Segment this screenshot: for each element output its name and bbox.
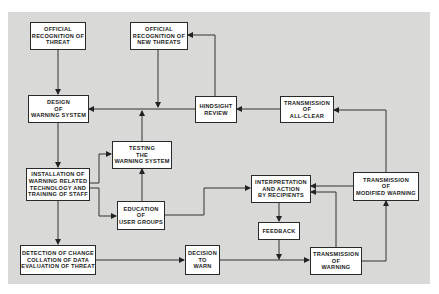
edge-hindsight-to-new-threats	[188, 35, 215, 96]
edge-education-to-interpretation	[165, 188, 250, 215]
node-feedback: FEEDBACK	[258, 222, 300, 240]
edge-installation-to-education	[90, 188, 116, 216]
node-official-recognition-threat: OFFICIAL RECOGNITION OF THREAT	[30, 22, 86, 50]
node-installation: INSTALLATION OF WARNING RELATED TECHNOLO…	[26, 168, 90, 201]
node-interpretation-action: INTERPRETATION AND ACTION BY RECIPIENTS	[251, 175, 311, 203]
node-transmission-modified-warning: TRANSMISSION OF MODIFIED WARNING	[353, 172, 419, 201]
edge-transmission-to-modified	[362, 201, 386, 261]
edge-transmission-to-interpretation	[311, 192, 336, 247]
node-education-user-groups: EDUCATION OF USER GROUPS	[117, 201, 165, 230]
node-hindsight-review: HINDSIGHT REVIEW	[195, 96, 237, 123]
node-design-warning-system: DESIGN OF WARNING SYSTEM	[28, 95, 89, 123]
edge-installation-to-testing	[90, 154, 111, 183]
node-transmission-all-clear: TRANSMISSION OF ALL-CLEAR	[280, 96, 334, 123]
node-testing-warning-system: TESTING THE WARNING SYSTEM	[112, 141, 172, 169]
node-decision-to-warn: DECISION TO WARN	[185, 245, 220, 275]
node-official-recognition-new-threats: OFFICIAL RECOGNITION OF NEW THREATS	[130, 22, 188, 50]
node-detection-change: DETECTION OF CHANGE COLLATION OF DATA EV…	[20, 245, 96, 275]
node-transmission-warning: TRANSMISSION OF WARNING	[310, 247, 362, 275]
edge-modified-to-all-clear	[334, 110, 386, 172]
